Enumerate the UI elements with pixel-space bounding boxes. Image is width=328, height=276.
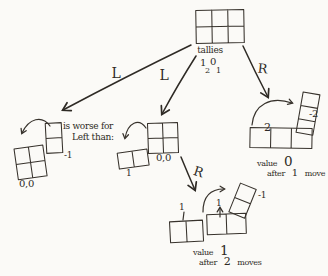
game-tree-diagram: tallies 1 2 0 1 L L R R is worse for Lef…: [0, 0, 328, 276]
right-node-caption: value 0 after 1 move: [256, 151, 326, 180]
right-1-label: R: [257, 61, 270, 77]
left-node-column: [45, 123, 63, 154]
right-2-label: R: [192, 163, 207, 181]
left-1-label: L: [112, 65, 121, 81]
left-2-label: L: [160, 67, 169, 83]
right-node-row: [250, 127, 312, 148]
middle-move-value: 1: [126, 168, 131, 178]
left-tallies: 0,0: [19, 178, 34, 189]
tally-sub-2: 1: [216, 66, 221, 75]
left-2-arrow: [162, 56, 196, 114]
left-node-block: [14, 145, 47, 180]
middle-tallies: 0,0: [156, 152, 171, 163]
right-col-value: -2: [309, 108, 318, 119]
left-move-value: -1: [64, 150, 72, 160]
bottom-up-value: 1: [216, 198, 221, 208]
edge-right-1: R: [243, 46, 269, 97]
bottom-caption-after: after: [199, 258, 217, 267]
bottom-diag-value: -1: [258, 190, 266, 200]
right-caption-count: 1: [292, 167, 298, 178]
right-move-arrow: [252, 101, 292, 125]
bottom-caption-word: value: [192, 248, 214, 257]
bottom-node-caption: value 1 after 2 moves: [192, 240, 262, 269]
right-row-value: 2: [264, 121, 271, 134]
comparison-note: is worse for Left than:: [63, 121, 114, 142]
right-node: 2 -2 value 0 after 1 move: [250, 92, 326, 180]
tally-notation: 1 2 0 1: [200, 56, 221, 75]
right-caption-word: value: [256, 159, 278, 168]
result-tally-stroke: [183, 212, 184, 220]
diagram-canvas: tallies 1 2 0 1 L L R R is worse for Lef…: [0, 0, 328, 276]
edge-left-1: L: [63, 45, 191, 110]
tally-sub-1: 2: [205, 66, 210, 75]
right-caption-unit: move: [305, 169, 326, 178]
result-domino: [169, 220, 203, 243]
note-line-2: Left than:: [72, 132, 114, 142]
bottom-node: -1 1 1 value 1 after 2 moves: [169, 183, 266, 269]
edge-left-2: L: [160, 56, 197, 114]
middle-node: 1 0,0: [117, 122, 178, 178]
bottom-caption-count: 2: [224, 255, 231, 268]
note-line-1: is worse for: [63, 121, 114, 131]
tallies-grid: [196, 10, 245, 44]
right-caption-after: after: [267, 169, 285, 178]
middle-node-block: [147, 122, 178, 153]
bottom-result-piece: 1: [169, 202, 203, 243]
root-node: tallies 1 2 0 1: [196, 10, 245, 75]
edge-right-2: R: [181, 157, 207, 190]
middle-node-domino: [117, 149, 149, 169]
middle-move-arrow: [125, 123, 146, 138]
root-caption: tallies: [197, 45, 223, 55]
left-1-arrow: [63, 45, 191, 110]
bottom-caption-unit: moves: [237, 258, 261, 267]
result-value: 1: [179, 202, 184, 212]
